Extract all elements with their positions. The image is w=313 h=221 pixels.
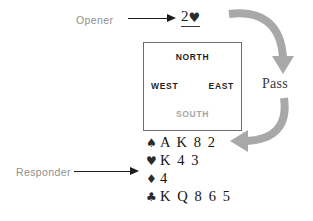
- responder-label: Responder: [16, 166, 71, 178]
- diamond-suit-icon: ♦: [146, 172, 160, 186]
- pass-arrow-top-head: [272, 56, 294, 74]
- hand-row: ♥ K 4 3: [146, 152, 286, 170]
- bridge-bidding-diagram: Opener 2♥ NORTH WEST EAST SOUTH Pass Res…: [0, 0, 313, 221]
- hand-row: ♦ 4: [146, 170, 286, 188]
- heart-suit-icon: ♥: [146, 154, 160, 168]
- heart-suit-icon: ♥: [189, 10, 201, 25]
- compass-label-west: WEST: [151, 81, 178, 91]
- opener-arrow-icon: [128, 14, 176, 23]
- club-suit-icon: ♣: [146, 190, 160, 204]
- pass-arrow-top-shaft: [229, 13, 283, 58]
- opening-bid: 2♥: [181, 8, 200, 27]
- hand-cards: K 4 3: [160, 152, 200, 169]
- arrow-head: [130, 167, 139, 175]
- arrow-shaft: [74, 171, 131, 172]
- arrow-shaft: [128, 18, 168, 19]
- hand-cards: K Q 8 6 5: [160, 188, 232, 205]
- hand-row: ♠ A K 8 2: [146, 134, 286, 152]
- responder-hand: ♠ A K 8 2 ♥ K 4 3 ♦ 4 ♣ K Q 8 6 5: [146, 134, 286, 206]
- hand-cards: 4: [160, 170, 169, 187]
- arrow-head: [167, 14, 176, 22]
- hand-cards: A K 8 2: [160, 134, 217, 151]
- bid-level: 2: [181, 8, 189, 24]
- opener-label: Opener: [76, 14, 113, 26]
- pass-label: Pass: [262, 76, 288, 92]
- responder-arrow-icon: [74, 167, 140, 176]
- spade-suit-icon: ♠: [146, 136, 160, 150]
- hand-row: ♣ K Q 8 6 5: [146, 188, 286, 206]
